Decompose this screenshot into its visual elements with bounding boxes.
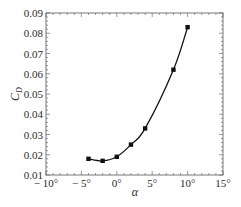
y-tick-label: 0.07 <box>24 48 44 60</box>
y-tick-label: 0.04 <box>24 108 44 120</box>
square-marker-icon <box>171 68 175 72</box>
y-tick-label: 0.05 <box>24 88 44 100</box>
data-series <box>86 25 190 163</box>
y-axis-label-sub: D <box>15 87 24 94</box>
y-tick-label: 0.06 <box>24 68 44 80</box>
cd-vs-alpha-chart: − 10°− 5°0°5°10°15° 0.010.020.030.040.05… <box>0 0 241 207</box>
square-marker-icon <box>115 155 119 159</box>
y-tick-label: 0.02 <box>24 149 43 161</box>
square-marker-icon <box>86 157 90 161</box>
square-marker-icon <box>100 159 104 163</box>
plot-border <box>46 13 223 175</box>
y-tick-label: 0.03 <box>24 129 44 141</box>
x-tick-label: 0° <box>112 177 122 189</box>
x-axis-label: α <box>132 185 139 199</box>
y-tick-label: 0.01 <box>24 169 43 181</box>
y-tick-labels: 0.010.020.030.040.050.060.070.080.09 <box>24 7 44 181</box>
square-marker-icon <box>129 142 133 146</box>
svg-text:CD: CD <box>8 87 24 101</box>
y-tick-label: 0.08 <box>24 27 44 39</box>
minor-ticks <box>46 13 223 175</box>
y-axis-label: CD <box>8 87 24 101</box>
series-line <box>88 27 187 161</box>
x-tick-label: 10° <box>180 177 195 189</box>
square-marker-icon <box>143 126 147 130</box>
x-tick-label: 5° <box>147 177 157 189</box>
x-tick-label: 15° <box>215 177 230 189</box>
y-tick-label: 0.09 <box>24 7 44 19</box>
x-tick-label: − 5° <box>72 177 91 189</box>
plot-frame <box>46 13 223 175</box>
square-marker-icon <box>185 25 189 29</box>
